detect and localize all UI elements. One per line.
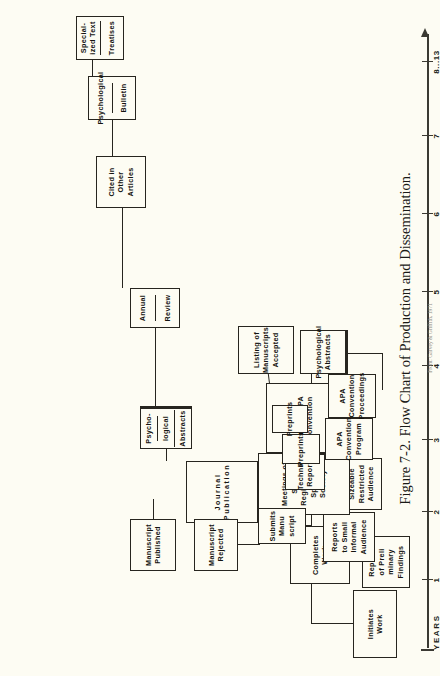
node-apa-convention-proceedings[interactable]: APA Convention Proceedings — [328, 374, 376, 418]
node-manuscript-published[interactable]: Manuscript Published — [130, 519, 176, 571]
node-preprints-a[interactable]: Preprints — [282, 434, 320, 464]
cell-psycho: Psycho- — [141, 413, 157, 443]
cell-treatises: Treatises — [100, 21, 124, 55]
cell-abstracts: Abstracts — [174, 410, 191, 446]
cell-psychological: Psychological — [89, 72, 112, 125]
node-apa-convention-program[interactable]: APA Convention Program — [325, 418, 373, 460]
connector-initiates-completes — [311, 623, 353, 624]
cell-annual: Annual — [131, 295, 155, 321]
node-psychological-bulletin[interactable]: Psychological Bulletin — [88, 76, 136, 120]
connector-cited-bulletin — [112, 120, 113, 156]
figure-caption: Figure 7-2. Flow Chart of Production and… — [388, 0, 422, 676]
node-psychological-abstracts[interactable]: Psycho- logical Abstracts — [140, 406, 192, 449]
cell-review: Review — [155, 295, 180, 322]
node-journal-publication[interactable]: Journal Publication — [186, 461, 258, 523]
figure-subcaption: From: Garvey & Griffith, 1971 — [422, 0, 438, 676]
node-listing-manuscripts-accepted[interactable]: Listing of Manuscripts Accepted — [238, 326, 294, 374]
node-cited-in-other-articles[interactable]: Cited in Other Articles — [96, 156, 146, 208]
node-manuscript-rejected[interactable]: Manuscript Rejected — [194, 519, 238, 571]
connector-psychabs-annualreview — [155, 328, 156, 406]
node-annual-review[interactable]: Annual Review — [130, 288, 180, 328]
node-submits-manuscript[interactable]: Submits Manu script — [258, 508, 306, 544]
node-specialized-text-treatises[interactable]: Special- ized Text Treatises — [76, 16, 124, 60]
figure-stage: Initiates Work Completes Work Reports of… — [0, 0, 440, 676]
cell-specialized-text: Special- ized Text — [77, 21, 100, 54]
cell-bulletin: Bulletin — [112, 83, 136, 112]
node-preprints-b[interactable]: Preprints — [272, 405, 308, 433]
connector-proceedings-psychabs-h — [382, 354, 383, 390]
node-reports-small-informal-audience[interactable]: Reports to Small Informal Audience — [323, 512, 375, 562]
connector-annualreview-cited — [122, 208, 123, 288]
flow-chart: Initiates Work Completes Work Reports of… — [0, 0, 440, 676]
node-psychological-abstracts-early[interactable]: Psychological Abstracts — [300, 330, 348, 374]
cell-logical: logical — [157, 416, 174, 441]
